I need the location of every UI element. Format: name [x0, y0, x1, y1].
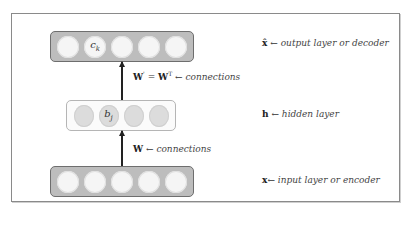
hidden-node — [74, 105, 94, 127]
hidden-node-label: bj — [104, 109, 113, 122]
output-node — [138, 36, 160, 58]
arrow-up-icon — [121, 131, 123, 166]
output-node — [57, 36, 79, 58]
input-node — [165, 171, 187, 193]
hidden-node-labeled: bj — [99, 105, 119, 127]
input-node — [138, 171, 160, 193]
upper-connection-label: W' = WT ← connections — [133, 73, 240, 82]
output-node — [111, 36, 133, 58]
hidden-node — [149, 105, 169, 127]
lower-connection-label: W ← connections — [133, 145, 211, 154]
input-layer-box — [50, 166, 194, 197]
output-node — [165, 36, 187, 58]
hidden-layer-label: h ← hidden layer — [262, 110, 339, 119]
output-layer-label: x̂ ← output layer or decoder — [262, 39, 389, 48]
input-node — [57, 171, 79, 193]
arrow-up-icon — [121, 62, 123, 100]
input-node — [84, 171, 106, 193]
output-node-label: ck — [90, 40, 100, 53]
output-node-labeled: ck — [84, 36, 106, 58]
output-layer-box: ck — [50, 31, 194, 62]
hidden-node — [124, 105, 144, 127]
input-layer-label: x← input layer or encoder — [262, 176, 380, 185]
input-node — [111, 171, 133, 193]
hidden-layer-box: bj — [66, 100, 176, 131]
